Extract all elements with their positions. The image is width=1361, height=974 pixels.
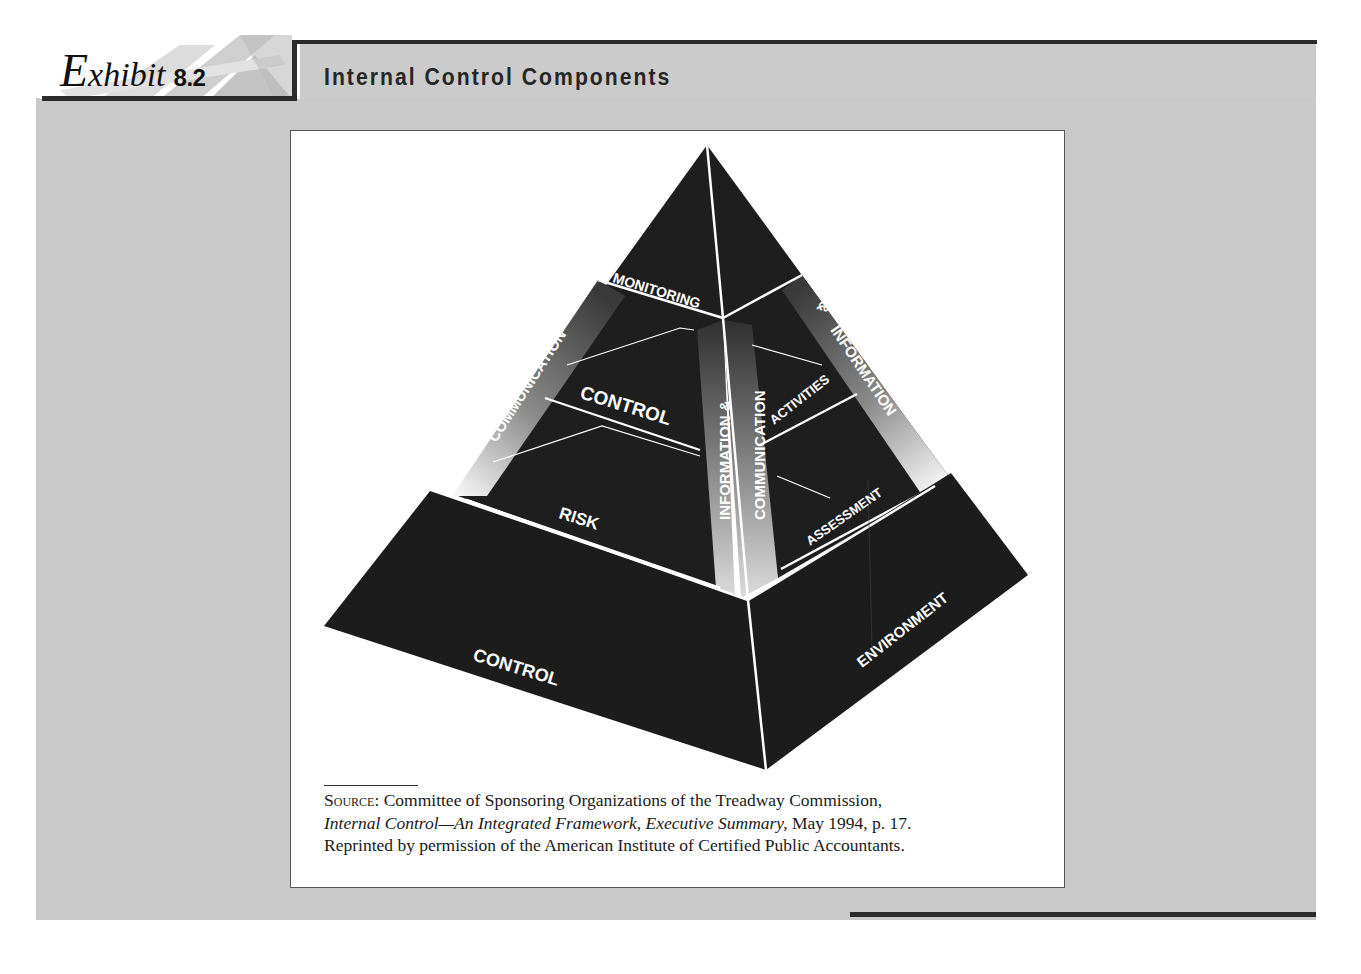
source-publication-title: Internal Control—An Integrated Framework… [324, 813, 788, 833]
source-divider [324, 785, 418, 786]
bottom-rule [850, 912, 1316, 917]
source-label: Source: [324, 790, 379, 810]
label-band-center-communication: COMMUNICATION [751, 390, 768, 520]
source-citation: Source: Committee of Sponsoring Organiza… [324, 789, 911, 857]
source-line-3: Reprinted by permission of the American … [324, 834, 911, 857]
source-line-1: Committee of Sponsoring Organizations of… [379, 790, 882, 810]
label-band-center-information: INFORMATION & [716, 400, 733, 520]
source-line-2: May 1994, p. 17. [788, 813, 912, 833]
